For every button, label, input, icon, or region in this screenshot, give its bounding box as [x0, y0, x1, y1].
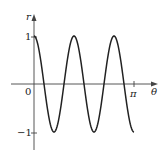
- x-tick-label-pi: π: [130, 89, 137, 99]
- origin-label: 0: [25, 87, 31, 97]
- x-axis-label: θ: [151, 87, 157, 97]
- y-axis-label: r: [26, 12, 31, 22]
- y-tick-label-1: 1: [25, 32, 31, 42]
- y-tick-label-neg1: −1: [17, 128, 32, 138]
- y-axis-arrow-icon: [32, 14, 37, 21]
